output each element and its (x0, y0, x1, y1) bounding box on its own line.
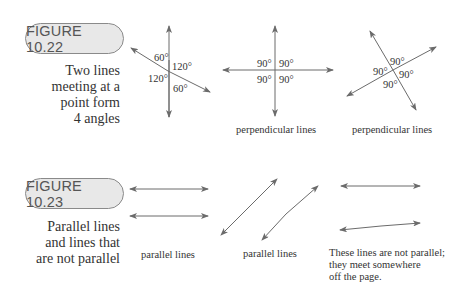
angle-label: 120° (172, 61, 192, 72)
angle-label: 60° (154, 52, 169, 63)
figure-caption-10-22: Two lines meeting at a point form 4 angl… (20, 63, 120, 127)
caption-line: point form (20, 95, 120, 111)
figure-caption-10-23: Parallel lines and lines that are not pa… (20, 219, 120, 267)
label-line: These lines are not parallel; (329, 247, 445, 259)
diagram-label: These lines are not parallel; they meet … (329, 247, 445, 283)
diagram-label: perpendicular lines (236, 124, 316, 135)
angle-label: 90° (399, 69, 414, 80)
diagram-label: parallel lines (141, 249, 195, 260)
angle-label: 90° (373, 66, 388, 77)
angle-label: 120° (148, 73, 168, 84)
caption-line: meeting at a (20, 79, 120, 95)
diagram-label: perpendicular lines (352, 124, 432, 135)
label-line: off the page. (329, 271, 445, 283)
angle-label: 90° (257, 74, 272, 85)
diagram-label: parallel lines (243, 248, 297, 259)
label-line: they meet somewhere (329, 259, 445, 271)
angle-label: 90° (383, 79, 398, 90)
caption-line: Two lines (20, 63, 120, 79)
angle-label: 90° (279, 74, 294, 85)
caption-line: are not parallel (20, 251, 120, 267)
angle-label: 90° (279, 58, 294, 69)
figure-label-10-22: FIGURE 10.22 (25, 23, 124, 54)
angle-label: 90° (257, 58, 272, 69)
caption-line: and lines that (20, 235, 120, 251)
angle-label: 60° (173, 83, 188, 94)
angle-label: 90° (390, 56, 405, 67)
figure-label-10-23: FIGURE 10.23 (25, 178, 124, 209)
caption-line: 4 angles (20, 111, 120, 127)
caption-line: Parallel lines (20, 219, 120, 235)
